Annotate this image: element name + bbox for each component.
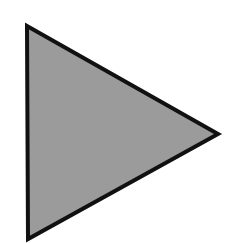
play-triangle-icon [0,0,232,243]
triangle-shape [27,26,218,239]
diagram-canvas [0,0,232,243]
